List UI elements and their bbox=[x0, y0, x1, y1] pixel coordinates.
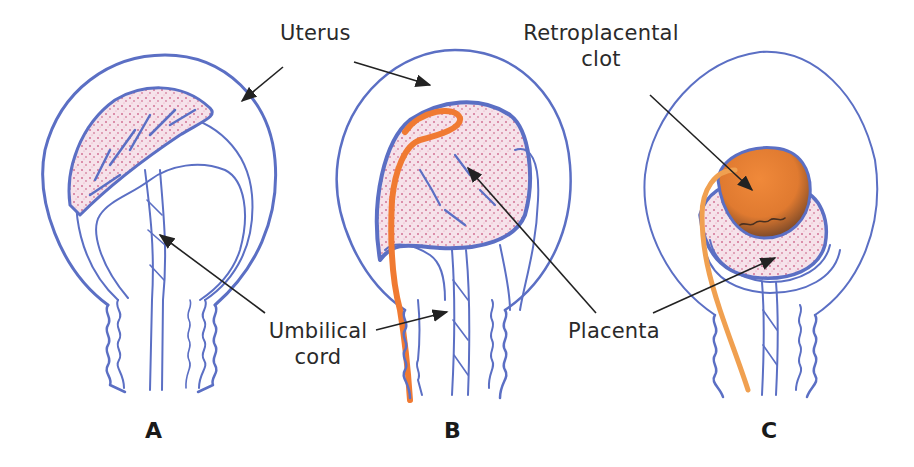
cervix-right-c bbox=[807, 315, 816, 397]
label-retroplacental-clot: Retroplacental clot bbox=[516, 20, 686, 72]
umbilical-cord-a bbox=[145, 170, 165, 390]
cervix-right-b bbox=[500, 310, 506, 398]
arrow-umbilical-cord-a bbox=[160, 235, 265, 313]
panel-letter-a: A bbox=[145, 418, 162, 443]
panel-letter-b: B bbox=[444, 418, 461, 443]
label-uterus: Uterus bbox=[280, 20, 351, 46]
diagram-canvas bbox=[0, 0, 914, 467]
panel-a-drawing bbox=[43, 55, 276, 392]
arrow-uterus-a bbox=[242, 67, 283, 101]
panel-c-drawing bbox=[644, 52, 877, 397]
label-placenta: Placenta bbox=[568, 318, 660, 344]
amniotic-sac bbox=[96, 165, 245, 300]
arrow-umbilical-cord-b bbox=[376, 312, 447, 330]
label-umbilical-cord: Umbilical cord bbox=[258, 318, 378, 370]
label-umbilical-line2: cord bbox=[258, 344, 378, 370]
label-retroplacental-line2: clot bbox=[516, 46, 686, 72]
arrow-placenta-c bbox=[653, 258, 775, 313]
arrow-retroplacental-clot bbox=[650, 95, 752, 190]
placental-abruption-diagram: Uterus Retroplacental clot Umbilical cor… bbox=[0, 0, 914, 467]
panel-letter-c: C bbox=[761, 418, 777, 443]
cervix-left-c bbox=[714, 315, 723, 397]
label-umbilical-line1: Umbilical bbox=[258, 318, 378, 344]
label-retroplacental-line1: Retroplacental bbox=[516, 20, 686, 46]
arrow-uterus-b bbox=[354, 62, 430, 85]
umbilical-cord-c bbox=[762, 282, 778, 395]
